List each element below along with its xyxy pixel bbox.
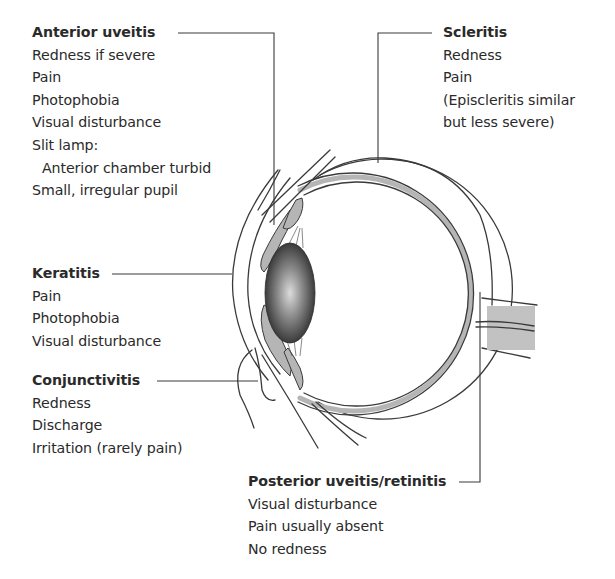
anterior-uveitis-symptom: Redness if severe <box>32 44 211 67</box>
lens <box>265 243 315 343</box>
upper-eyelid-curl <box>258 170 280 210</box>
choroid-band <box>300 177 471 411</box>
conjunctivitis-title: Conjunctivitis <box>32 369 182 392</box>
upper-eyelid-2 <box>270 157 335 222</box>
anterior-uveitis-symptom: Photophobia <box>32 89 211 112</box>
zonule-upper-2 <box>296 228 300 246</box>
posterior-uveitis-symptom: No redness <box>248 538 446 561</box>
anterior-uveitis-title: Anterior uveitis <box>32 21 211 44</box>
anterior-uveitis-symptom: Small, irregular pupil <box>32 179 211 202</box>
posterior-uveitis-symptom: Visual disturbance <box>248 493 446 516</box>
choroid-outer <box>298 173 474 415</box>
label-keratitis: Keratitis Pain Photophobia Visual distur… <box>32 262 161 352</box>
zonule-upper-3 <box>302 228 303 248</box>
lower-eyelid <box>238 350 254 428</box>
scleritis-symptom: but less severe) <box>443 111 575 134</box>
ciliary-upper <box>283 198 303 229</box>
posterior-uveitis-symptom: Pain usually absent <box>248 515 446 538</box>
posterior-uveitis-title: Posterior uveitis/retinitis <box>248 470 446 493</box>
label-posterior-uveitis: Posterior uveitis/retinitis Visual distu… <box>248 470 446 560</box>
keratitis-title: Keratitis <box>32 262 161 285</box>
zonule-lower-3 <box>300 338 302 356</box>
anterior-uveitis-symptom: Visual disturbance <box>32 111 211 134</box>
anterior-uveitis-symptom: Slit lamp: <box>32 134 211 157</box>
conjunctivitis-symptom: Discharge <box>32 414 182 437</box>
conjunctivitis-symptom: Redness <box>32 392 182 415</box>
keratitis-symptom: Photophobia <box>32 307 161 330</box>
label-anterior-uveitis: Anterior uveitis Redness if severe Pain … <box>32 21 211 202</box>
anterior-uveitis-symptom: Pain <box>32 66 211 89</box>
optic-nerve-top <box>482 298 537 305</box>
anterior-uveitis-symptom: Anterior chamber turbid <box>32 157 211 180</box>
conjunctivitis-symptom: Irritation (rarely pain) <box>32 437 182 460</box>
label-scleritis: Scleritis Redness Pain (Episcleritis sim… <box>443 21 575 134</box>
scleritis-symptom: Redness <box>443 44 575 67</box>
lower-eyelid-inner <box>255 348 275 400</box>
scleritis-symptom: (Episcleritis similar <box>443 89 575 112</box>
keratitis-symptom: Pain <box>32 285 161 308</box>
scleritis-title: Scleritis <box>443 21 575 44</box>
keratitis-symptom: Visual disturbance <box>32 330 161 353</box>
label-conjunctivitis: Conjunctivitis Redness Discharge Irritat… <box>32 369 182 459</box>
leader-scleritis <box>378 33 432 163</box>
scleritis-symptom: Pain <box>443 66 575 89</box>
